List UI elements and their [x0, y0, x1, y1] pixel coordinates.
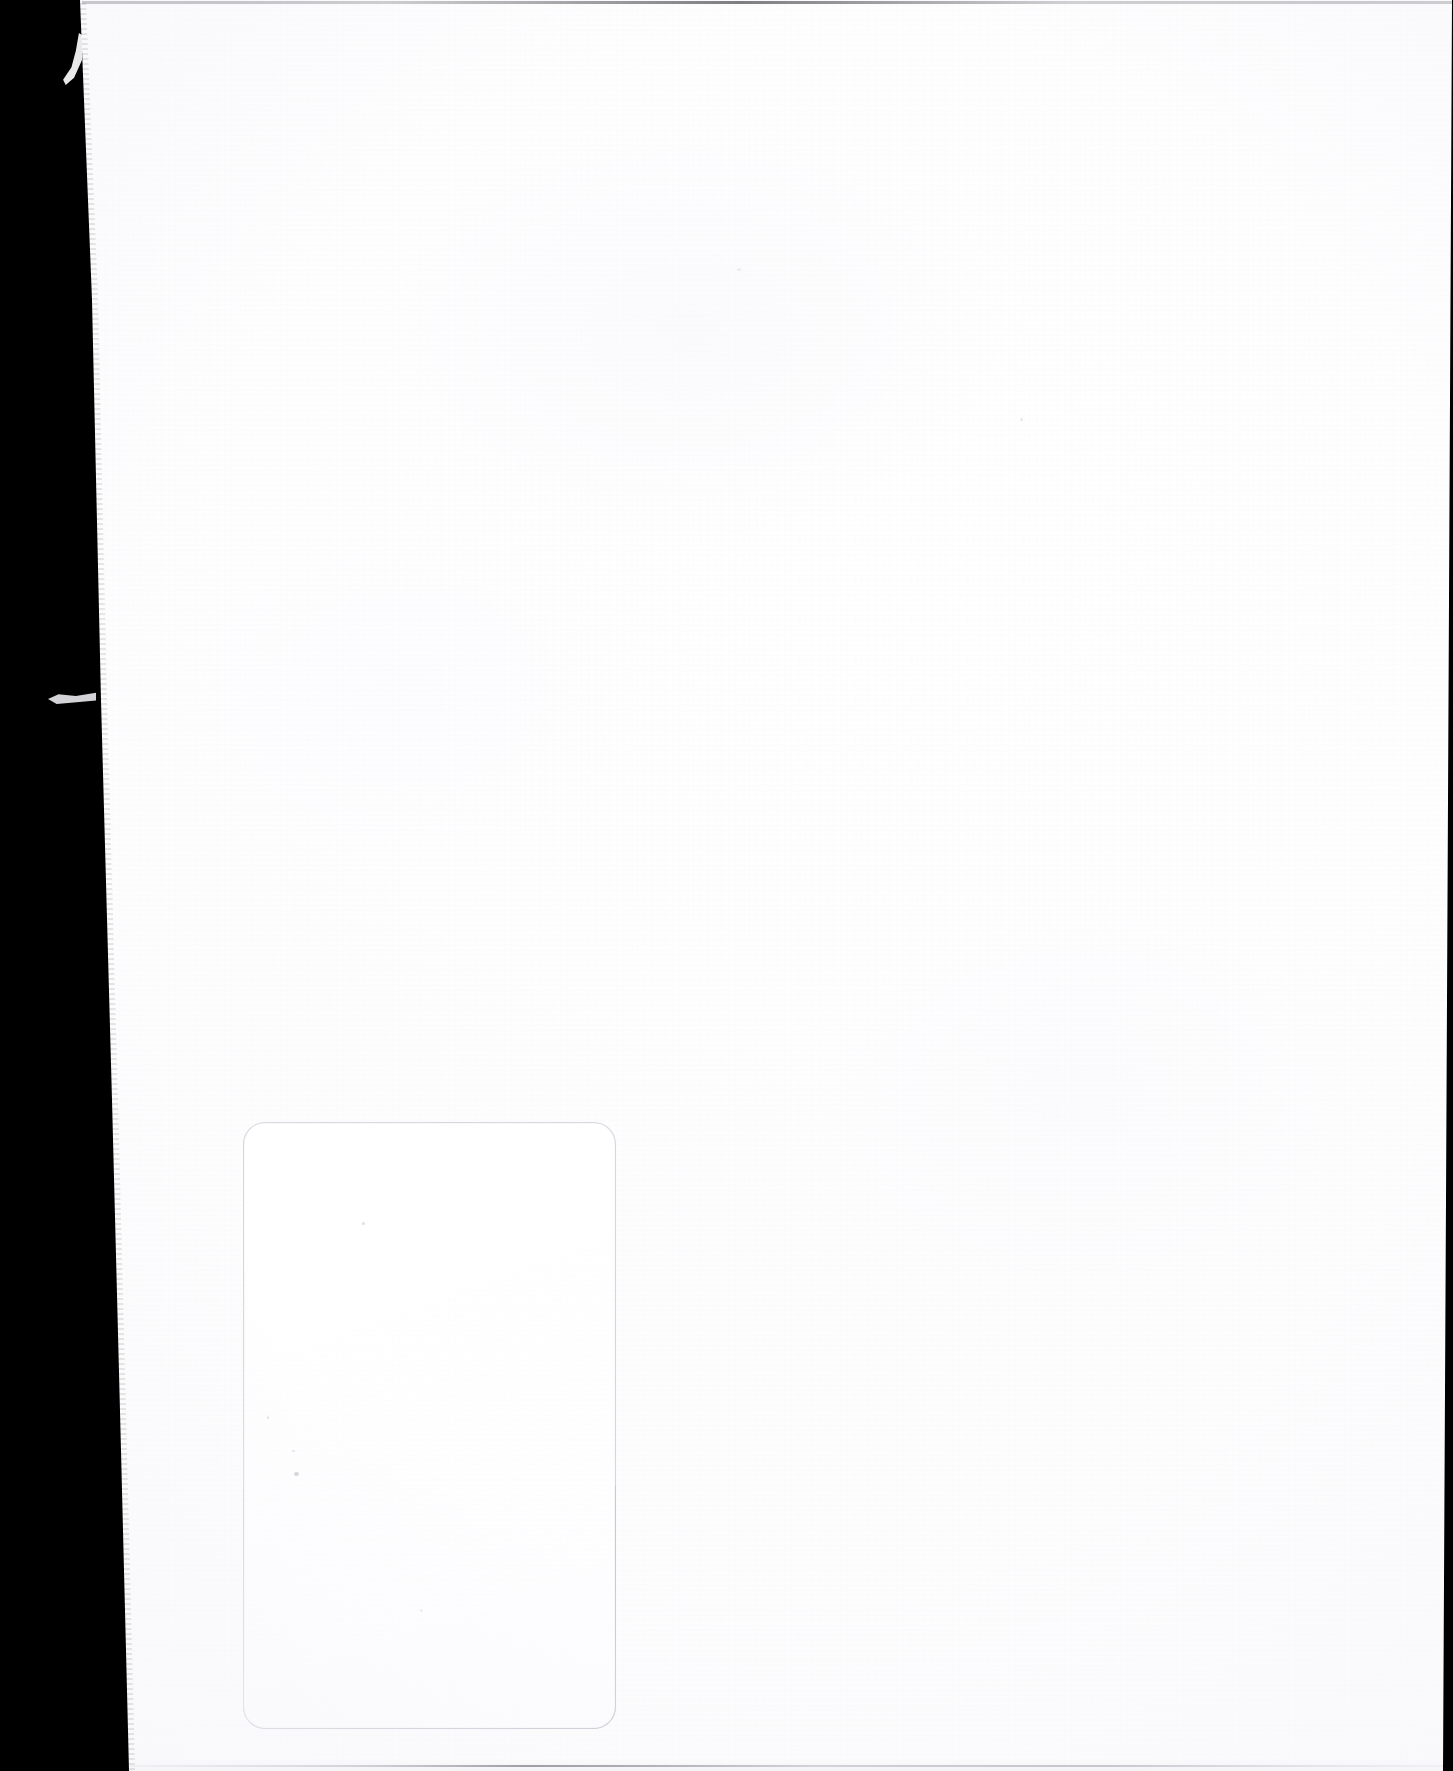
- page-edge-hairline-top: [82, 1, 1453, 4]
- scan-blotch-right: [820, 900, 1340, 1280]
- scan-blotch-upper: [380, 120, 1000, 540]
- paper-grain-texture: [0, 0, 1453, 1771]
- page-edge-hairline-bottom: [130, 1765, 1446, 1767]
- scan-blotch-left: [180, 520, 640, 860]
- scanned-page-canvas: [0, 0, 1453, 1771]
- faint-rounded-rectangle-impression: [243, 1122, 616, 1729]
- paper-sheet: [0, 0, 1453, 1771]
